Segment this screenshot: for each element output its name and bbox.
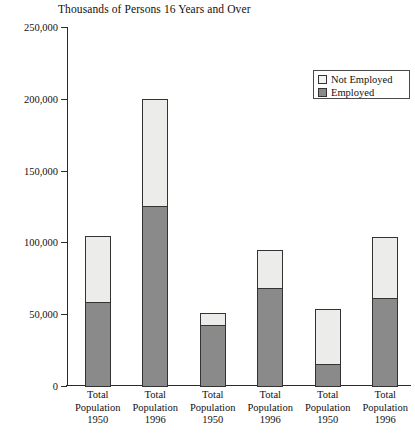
- legend-label: Not Employed: [331, 74, 393, 85]
- y-tick-label: 50,000: [29, 309, 58, 320]
- y-tick-mark: [61, 27, 67, 28]
- bar-group: [315, 309, 341, 386]
- y-tick-mark: [61, 99, 67, 100]
- x-axis-label-line: Population: [348, 402, 415, 415]
- bar-group: [200, 313, 226, 386]
- bar-segment-not-employed: [142, 99, 168, 207]
- bar-segment-employed: [372, 298, 398, 387]
- bar-group: [85, 236, 111, 386]
- y-tick-mark: [61, 171, 67, 172]
- bar-segment-not-employed: [315, 309, 341, 365]
- y-tick-label: 100,000: [24, 237, 58, 248]
- legend-swatch-icon: [318, 88, 327, 97]
- x-axis-label-line: 1996: [348, 414, 415, 427]
- legend-label: Employed: [331, 87, 374, 98]
- y-tick-label: 150,000: [24, 165, 58, 176]
- y-tick-label: 200,000: [24, 93, 58, 104]
- y-tick-mark: [61, 242, 67, 243]
- bar-segment-employed: [315, 364, 341, 387]
- y-tick-label: 0: [53, 381, 58, 392]
- bar-segment-employed: [142, 206, 168, 387]
- y-tick-mark: [61, 314, 67, 315]
- chart-title: Thousands of Persons 16 Years and Over: [58, 3, 251, 15]
- x-axis-line: [66, 385, 411, 386]
- bar-segment-employed: [85, 302, 111, 387]
- legend-swatch-icon: [318, 75, 327, 84]
- bar-segment-not-employed: [372, 237, 398, 299]
- bar-segment-employed: [200, 325, 226, 387]
- legend-item[interactable]: Employed: [318, 86, 409, 98]
- x-axis-label: TotalPopulation1996: [348, 389, 415, 427]
- bar-group: [142, 99, 168, 386]
- bar-segment-employed: [257, 288, 283, 387]
- x-axis-label-line: Total: [348, 389, 415, 402]
- stacked-bar-chart: Thousands of Persons 16 Years and Over 0…: [0, 0, 415, 441]
- chart-legend: Not EmployedEmployed: [313, 70, 410, 99]
- bar-group: [257, 250, 283, 386]
- bar-group: [372, 237, 398, 386]
- y-axis-line: [67, 27, 68, 386]
- legend-item[interactable]: Not Employed: [318, 73, 409, 85]
- bar-segment-not-employed: [257, 250, 283, 289]
- y-tick-mark: [61, 386, 67, 387]
- y-tick-label: 250,000: [24, 22, 58, 33]
- bar-segment-not-employed: [85, 236, 111, 303]
